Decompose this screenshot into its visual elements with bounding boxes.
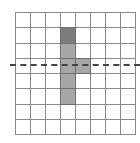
grid-cell (75, 12, 91, 28)
grid-cell (75, 27, 91, 43)
grid-cell (120, 43, 136, 59)
dashed-axis-line (10, 64, 140, 66)
grid-cell (30, 27, 46, 43)
grid-cell (120, 27, 136, 43)
grid-cell (45, 73, 61, 89)
grid-cell (105, 27, 121, 43)
grid-cell (30, 43, 46, 59)
grid-cell (45, 27, 61, 43)
grid-cell (120, 88, 136, 104)
grid-cell (90, 73, 106, 89)
grid (15, 12, 135, 134)
grid-cell (90, 88, 106, 104)
grid-cell (90, 27, 106, 43)
grid-cell (75, 73, 91, 89)
shaded-cell (60, 73, 76, 89)
shaded-cell (60, 27, 76, 43)
grid-cell (90, 12, 106, 28)
grid-cell (105, 12, 121, 28)
grid-cell (45, 88, 61, 104)
grid-cell (105, 88, 121, 104)
grid-cell (45, 12, 61, 28)
grid-cell (105, 104, 121, 120)
grid-cell (90, 104, 106, 120)
grid-cell (30, 119, 46, 135)
grid-cell (15, 88, 31, 104)
grid-cell (120, 12, 136, 28)
grid-cell (30, 104, 46, 120)
grid-cell (30, 73, 46, 89)
grid-cell (75, 104, 91, 120)
grid-cell (75, 88, 91, 104)
grid-cell (105, 43, 121, 59)
grid-cell (15, 119, 31, 135)
grid-cell (45, 43, 61, 59)
shaded-cell (60, 88, 76, 104)
grid-cell (90, 43, 106, 59)
grid-cell (90, 119, 106, 135)
grid-cell (120, 73, 136, 89)
grid-cell (30, 88, 46, 104)
grid-cell (75, 43, 91, 59)
grid-cell (60, 12, 76, 28)
grid-cell (15, 43, 31, 59)
grid-cell (15, 27, 31, 43)
grid-cell (15, 73, 31, 89)
grid-cell (60, 104, 76, 120)
grid-cell (75, 119, 91, 135)
grid-cell (30, 12, 46, 28)
grid-cell (120, 104, 136, 120)
grid-cell (15, 104, 31, 120)
grid-cell (45, 119, 61, 135)
grid-cell (105, 119, 121, 135)
grid-cell (120, 119, 136, 135)
shaded-cell (60, 43, 76, 59)
grid-cell (105, 73, 121, 89)
grid-cell (45, 104, 61, 120)
grid-cell (60, 119, 76, 135)
grid-cell (15, 12, 31, 28)
